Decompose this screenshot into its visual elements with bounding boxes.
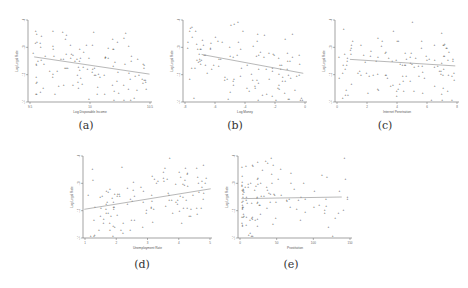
data-point: +	[440, 69, 442, 73]
data-point: +	[251, 217, 253, 221]
data-point: +	[196, 166, 198, 170]
data-point: +	[36, 40, 38, 44]
data-point: +	[41, 34, 43, 38]
data-point: +	[365, 71, 367, 75]
x-tick-label: 100	[311, 241, 316, 245]
data-point: +	[203, 163, 205, 167]
data-point: +	[241, 174, 243, 178]
data-point: +	[107, 46, 109, 50]
data-point: +	[395, 58, 397, 62]
data-point: +	[112, 37, 114, 41]
data-point: +	[107, 56, 109, 60]
data-point: +	[298, 198, 300, 202]
data-point: +	[248, 233, 250, 237]
data-point: +	[443, 54, 445, 58]
data-point: +	[270, 156, 272, 160]
data-point: +	[202, 43, 204, 47]
data-point: +	[441, 98, 443, 102]
data-point: +	[252, 234, 254, 238]
data-point: +	[298, 53, 300, 57]
y-tick-label: -12	[232, 208, 236, 212]
data-point: +	[452, 57, 454, 61]
data-point: +	[441, 92, 443, 96]
data-point: +	[201, 58, 203, 62]
data-point: +	[81, 82, 83, 86]
data-point: +	[294, 88, 296, 92]
data-point: +	[344, 67, 346, 71]
data-point: +	[428, 57, 430, 61]
data-point: +	[324, 208, 326, 212]
data-point: +	[342, 71, 344, 75]
data-point: +	[237, 20, 239, 24]
data-point: +	[247, 182, 249, 186]
data-point: +	[447, 89, 449, 93]
data-point: +	[54, 92, 56, 96]
data-point: +	[217, 39, 219, 43]
data-point: +	[64, 37, 66, 41]
data-point: +	[191, 66, 193, 70]
data-point: +	[151, 193, 153, 197]
data-point: +	[192, 193, 194, 197]
data-point: +	[359, 69, 361, 73]
x-tick-label: 150	[347, 241, 352, 245]
caption-e: (e)	[271, 258, 311, 271]
data-point: +	[90, 234, 92, 238]
data-point: +	[64, 66, 66, 70]
data-point: +	[142, 200, 144, 204]
data-point: +	[405, 74, 407, 78]
data-point: +	[180, 175, 182, 179]
data-point: +	[448, 73, 450, 77]
data-point: +	[65, 52, 67, 56]
data-point: +	[441, 61, 443, 65]
data-point: +	[109, 221, 111, 225]
data-point: +	[411, 20, 413, 24]
y-tick-label: -12	[77, 208, 81, 212]
data-point: +	[39, 90, 41, 94]
plot-canvas: -14-12-10-812345Unemployment RateLog Leg…	[63, 148, 218, 260]
data-point: +	[168, 198, 170, 202]
data-point: +	[153, 207, 155, 211]
data-point: +	[185, 198, 187, 202]
x-tick-label: 1	[84, 241, 86, 245]
data-point: +	[402, 79, 404, 83]
data-point: +	[200, 62, 202, 66]
data-point: +	[289, 59, 291, 63]
data-point: +	[92, 167, 94, 171]
data-point: +	[63, 83, 65, 87]
data-point: +	[32, 51, 34, 55]
data-point: +	[453, 71, 455, 75]
data-point: +	[424, 76, 426, 80]
data-point: +	[344, 156, 346, 160]
data-point: +	[346, 195, 348, 199]
x-tick-label: 0	[336, 105, 338, 109]
x-tick-label: -2	[274, 105, 277, 109]
data-point: +	[119, 194, 121, 198]
data-point: +	[324, 211, 326, 215]
data-point: +	[256, 217, 258, 221]
data-point: +	[72, 83, 74, 87]
data-point: +	[79, 47, 81, 51]
data-point: +	[277, 177, 279, 181]
data-point: +	[137, 57, 139, 61]
data-point: +	[434, 58, 436, 62]
scatter-plot-a: -14-12-10-89.51010.5Log Disposable Incom…	[8, 12, 158, 132]
data-point: +	[245, 164, 247, 168]
data-point: +	[130, 98, 132, 102]
y-axis-label: Log Legal Rate	[70, 186, 74, 208]
caption-b: (b)	[215, 119, 255, 132]
data-point: +	[102, 221, 104, 225]
data-point: +	[265, 159, 267, 163]
data-point: +	[88, 97, 90, 101]
data-point: +	[110, 214, 112, 218]
data-point: +	[409, 55, 411, 59]
data-point: +	[262, 168, 264, 172]
data-point: +	[210, 46, 212, 50]
data-point: +	[242, 29, 244, 33]
data-point: +	[189, 29, 191, 33]
data-point: +	[240, 74, 242, 78]
data-point: +	[252, 163, 254, 167]
data-point: +	[250, 181, 252, 185]
data-point: +	[78, 86, 80, 90]
data-point: +	[367, 91, 369, 95]
data-point: +	[385, 50, 387, 54]
